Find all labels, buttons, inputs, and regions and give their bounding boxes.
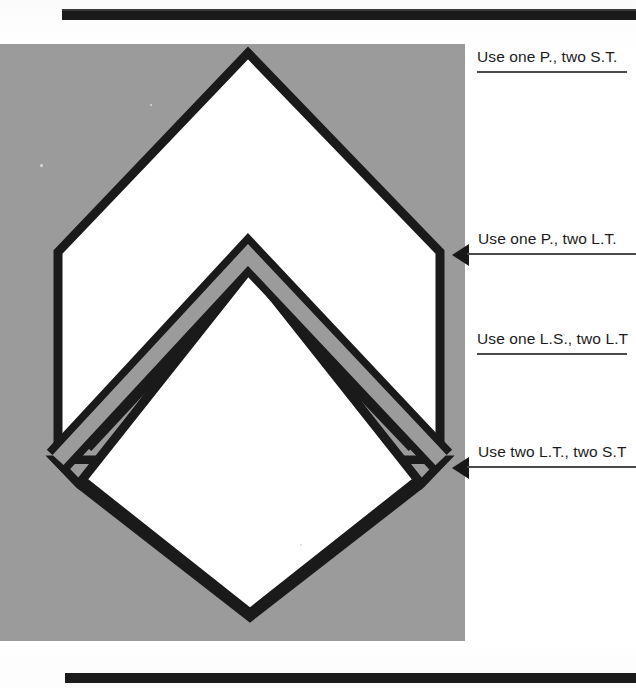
callout-2-text: Use one P., two L.T. [478,230,617,248]
callout-1: Use one P., two S.T. [465,48,636,88]
artwork-panel [0,44,465,641]
callout-4: Use two L.T., two S.T [465,443,636,483]
callout-4-text: Use two L.T., two S.T [478,443,627,461]
callout-2-underline [478,253,636,255]
insignia-diagram [0,44,465,641]
callout-3-underline [477,353,627,355]
callout-1-text: Use one P., two S.T. [477,48,617,66]
callout-3-text: Use one L.S., two L.T [477,330,628,348]
header-divider-bar [62,9,636,20]
arrow-left-icon [452,457,469,479]
callout-4-underline [478,466,636,468]
callout-3: Use one L.S., two L.T [465,330,636,370]
callout-1-underline [477,71,627,73]
callout-2: Use one P., two L.T. [465,230,636,270]
arrow-left-icon [452,244,469,266]
footer-divider-bar [65,673,636,683]
